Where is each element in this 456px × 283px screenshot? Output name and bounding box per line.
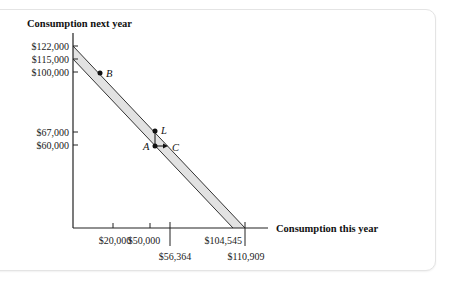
- point-b: [98, 71, 103, 76]
- y-tick-label: $60,000: [37, 140, 70, 151]
- point-l: [153, 129, 158, 134]
- x-tick-label: $104,545: [205, 235, 243, 246]
- y-axis-title: Consumption next year: [27, 18, 132, 29]
- y-tick-label: $122,000: [32, 41, 70, 52]
- point-a-label: A: [142, 141, 150, 152]
- point-l-label: L: [160, 125, 167, 136]
- y-tick-label: $115,000: [32, 54, 69, 65]
- lower-budget-line: [73, 59, 233, 228]
- x-axis-title: Consumption this year: [276, 223, 378, 234]
- x-tick-label: $110,909: [227, 251, 264, 262]
- y-tick-label: $100,000: [32, 67, 70, 78]
- chart-svg: Consumption next year Consumption this y…: [0, 0, 456, 283]
- point-c-label: C: [172, 142, 180, 153]
- y-tick-label: $67,000: [37, 127, 70, 138]
- x-tick-label: $50,000: [128, 235, 161, 246]
- x-tick-label: $20,000: [99, 235, 132, 246]
- x-tick-label: $56,364: [159, 251, 192, 262]
- point-b-label: B: [106, 68, 113, 79]
